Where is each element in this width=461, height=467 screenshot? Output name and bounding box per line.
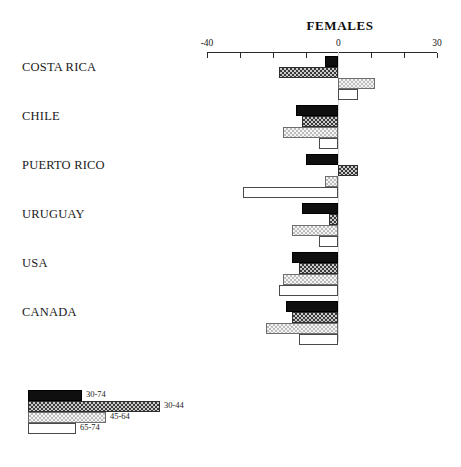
bar-costa-rica-30-44: [279, 67, 338, 78]
bar-costa-rica-30-74: [325, 56, 338, 67]
category-label-usa: USA: [22, 256, 48, 271]
category-label-chile: CHILE: [22, 109, 60, 124]
category-label-costa-rica: COSTA RICA: [22, 60, 96, 75]
legend-label-30-74: 30-74: [86, 389, 106, 399]
legend-swatch-65-74: [28, 423, 76, 434]
bar-chile-65-74: [319, 138, 339, 149]
axis-tick-label: 0: [336, 38, 341, 48]
bar-puerto-rico-65-74: [243, 187, 338, 198]
bar-uruguay-65-74: [319, 236, 339, 247]
bar-uruguay-30-44: [329, 214, 339, 225]
legend-label-45-64: 45-64: [110, 411, 130, 421]
legend-swatch-30-74: [28, 390, 82, 401]
chart-title: FEMALES: [240, 18, 440, 34]
bar-usa-30-44: [299, 263, 338, 274]
bar-canada-30-74: [286, 301, 339, 312]
bar-chile-30-74: [296, 105, 339, 116]
bar-costa-rica-45-64: [338, 78, 374, 89]
legend-item-45-64: 45-64: [28, 412, 228, 423]
bar-usa-30-74: [292, 252, 338, 263]
category-label-canada: CANADA: [22, 305, 77, 320]
bar-chile-45-64: [283, 127, 339, 138]
chart-root: FEMALES -40030 COSTA RICACHILEPUERTO RIC…: [0, 0, 461, 467]
bar-canada-65-74: [299, 334, 338, 345]
legend-item-30-74: 30-74: [28, 390, 228, 401]
legend-label-30-44: 30-44: [164, 400, 184, 410]
bar-uruguay-30-74: [302, 203, 338, 214]
bar-canada-45-64: [266, 323, 338, 334]
axis-tick-label: -40: [201, 38, 214, 48]
bar-chile-30-44: [302, 116, 338, 127]
bar-usa-45-64: [283, 274, 339, 285]
legend-item-65-74: 65-74: [28, 423, 228, 434]
bar-costa-rica-65-74: [338, 89, 358, 100]
bar-uruguay-45-64: [292, 225, 338, 236]
chart-legend: 30-7430-4445-6465-74: [28, 390, 228, 450]
bar-canada-30-44: [292, 312, 338, 323]
plot-area: COSTA RICACHILEPUERTO RICOURUGUAYUSACANA…: [0, 52, 461, 352]
legend-label-65-74: 65-74: [80, 422, 100, 432]
category-label-uruguay: URUGUAY: [22, 207, 85, 222]
category-label-puerto-rico: PUERTO RICO: [22, 158, 105, 173]
axis-tick-label: 30: [432, 38, 442, 48]
bar-puerto-rico-30-44: [338, 165, 358, 176]
bar-puerto-rico-45-64: [325, 176, 338, 187]
legend-swatch-30-44: [28, 401, 160, 412]
bar-usa-65-74: [279, 285, 338, 296]
bar-puerto-rico-30-74: [306, 154, 339, 165]
